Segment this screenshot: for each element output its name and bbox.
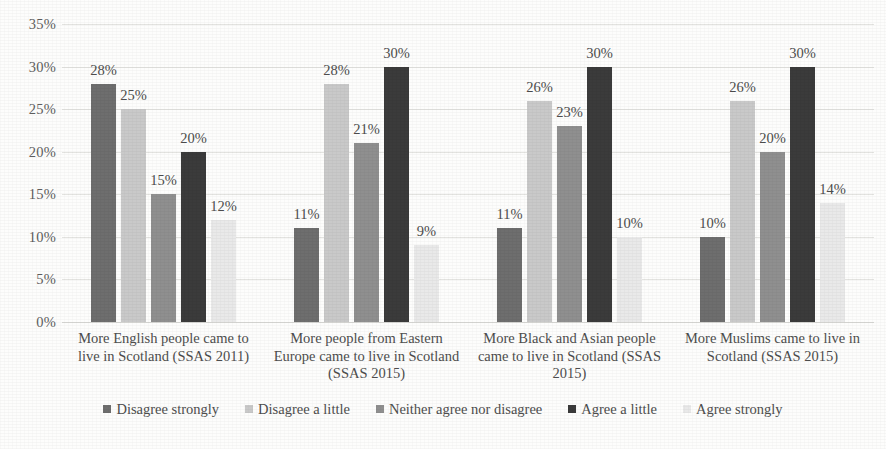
y-axis-tick-label: 15%	[4, 187, 56, 202]
bar: 30%	[384, 67, 409, 322]
bar-slot: 10%	[700, 24, 725, 322]
bar-group: 10%26%20%30%14%	[671, 24, 874, 322]
bar-value-label: 25%	[120, 88, 147, 103]
bar: 28%	[324, 84, 349, 322]
legend-item[interactable]: Agree strongly	[683, 402, 783, 417]
legend-item[interactable]: Agree a little	[568, 402, 657, 417]
bar: 26%	[527, 101, 552, 322]
y-axis-tick-label: 5%	[4, 272, 56, 287]
bar-groups: 28%25%15%20%12%11%28%21%30%9%11%26%23%30…	[62, 24, 874, 322]
bar: 21%	[354, 143, 379, 322]
y-axis: 35%30%25%20%15%10%5%0%	[0, 24, 56, 322]
bar: 10%	[700, 237, 725, 322]
bar-slot: 9%	[414, 24, 439, 322]
bar: 10%	[617, 237, 642, 322]
bar-value-label: 26%	[526, 80, 553, 95]
bar-value-label: 28%	[323, 63, 350, 78]
bar-slot: 10%	[617, 24, 642, 322]
bar-value-label: 20%	[759, 131, 786, 146]
bar-value-label: 14%	[819, 182, 846, 197]
bar-slot: 15%	[151, 24, 176, 322]
legend-swatch-icon	[245, 405, 253, 413]
bar-group: 11%26%23%30%10%	[468, 24, 671, 322]
legend-label: Neither agree nor disagree	[389, 402, 542, 417]
legend-label: Agree strongly	[696, 402, 783, 417]
y-axis-tick-label: 20%	[4, 144, 56, 159]
y-axis-tick-label: 10%	[4, 230, 56, 245]
bar-chart: 35%30%25%20%15%10%5%0% 28%25%15%20%12%11…	[0, 0, 886, 449]
bar-group: 11%28%21%30%9%	[265, 24, 468, 322]
bar-group: 28%25%15%20%12%	[62, 24, 265, 322]
bar-slot: 14%	[820, 24, 845, 322]
bar-value-label: 11%	[496, 207, 522, 222]
bar: 28%	[91, 84, 116, 322]
bar-value-label: 23%	[556, 105, 583, 120]
x-axis-category-label: More Muslims came to live in Scotland (S…	[671, 330, 874, 383]
bar-value-label: 30%	[586, 46, 613, 61]
bar-slot: 26%	[527, 24, 552, 322]
legend-swatch-icon	[103, 405, 111, 413]
bar-slot: 26%	[730, 24, 755, 322]
legend-item[interactable]: Disagree a little	[245, 402, 350, 417]
bar-value-label: 9%	[417, 224, 436, 239]
bar-slot: 25%	[121, 24, 146, 322]
legend-label: Disagree a little	[258, 402, 350, 417]
bar-slot: 23%	[557, 24, 582, 322]
legend-item[interactable]: Disagree strongly	[103, 402, 219, 417]
y-axis-tick-label: 35%	[4, 17, 56, 32]
bar-value-label: 30%	[789, 46, 816, 61]
gridline	[62, 322, 874, 323]
bar: 9%	[414, 245, 439, 322]
bar-slot: 20%	[181, 24, 206, 322]
bar-value-label: 15%	[150, 173, 177, 188]
bar-slot: 11%	[294, 24, 319, 322]
bar: 20%	[181, 152, 206, 322]
bar-value-label: 10%	[616, 216, 643, 231]
y-axis-tick-label: 30%	[4, 59, 56, 74]
bar-slot: 11%	[497, 24, 522, 322]
bar-slot: 20%	[760, 24, 785, 322]
legend-swatch-icon	[568, 405, 576, 413]
legend-swatch-icon	[683, 405, 691, 413]
x-axis-category-label: More people from Eastern Europe came to …	[265, 330, 468, 383]
bar: 25%	[121, 109, 146, 322]
legend-swatch-icon	[376, 405, 384, 413]
bar: 11%	[497, 228, 522, 322]
y-axis-tick-label: 25%	[4, 102, 56, 117]
bar: 23%	[557, 126, 582, 322]
bar-value-label: 10%	[699, 216, 726, 231]
legend-label: Disagree strongly	[116, 402, 219, 417]
bar-value-label: 20%	[180, 131, 207, 146]
bar: 15%	[151, 194, 176, 322]
bar: 14%	[820, 203, 845, 322]
bar: 30%	[587, 67, 612, 322]
bar: 11%	[294, 228, 319, 322]
bar-value-label: 26%	[729, 80, 756, 95]
x-axis-category-label: More English people came to live in Scot…	[62, 330, 265, 383]
bar-slot: 28%	[91, 24, 116, 322]
bar-slot: 21%	[354, 24, 379, 322]
bar-slot: 30%	[384, 24, 409, 322]
bar-value-label: 28%	[90, 63, 117, 78]
bar-value-label: 12%	[210, 199, 237, 214]
bar: 26%	[730, 101, 755, 322]
bar-value-label: 21%	[353, 122, 380, 137]
chart-legend: Disagree stronglyDisagree a littleNeithe…	[0, 402, 886, 417]
bar: 20%	[760, 152, 785, 322]
bar: 30%	[790, 67, 815, 322]
legend-item[interactable]: Neither agree nor disagree	[376, 402, 542, 417]
bar-slot: 28%	[324, 24, 349, 322]
x-axis-category-label: More Black and Asian people came to live…	[468, 330, 671, 383]
bar-slot: 30%	[790, 24, 815, 322]
y-axis-tick-label: 0%	[4, 315, 56, 330]
bar-slot: 30%	[587, 24, 612, 322]
legend-label: Agree a little	[581, 402, 657, 417]
bar: 12%	[211, 220, 236, 322]
x-axis-categories: More English people came to live in Scot…	[62, 330, 874, 383]
bar-slot: 12%	[211, 24, 236, 322]
bar-value-label: 11%	[293, 207, 319, 222]
bar-value-label: 30%	[383, 46, 410, 61]
